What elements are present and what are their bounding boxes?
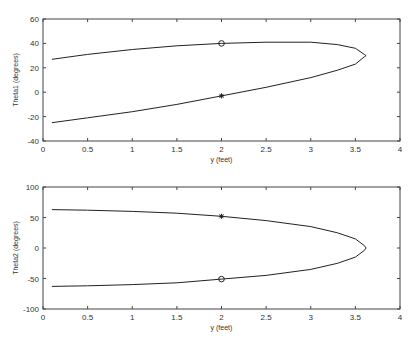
y-tick-label: -100 bbox=[23, 305, 40, 314]
y-tick-label: 50 bbox=[30, 214, 39, 223]
x-tick-label: 2 bbox=[219, 145, 224, 154]
y-tick-label: 0 bbox=[35, 88, 40, 97]
plot-area bbox=[43, 187, 400, 309]
figure: 00.511.522.533.546040200-20-40y (feet)Th… bbox=[0, 0, 418, 343]
y-tick-label: 20 bbox=[30, 64, 39, 73]
x-tick-label: 3.5 bbox=[350, 313, 362, 322]
x-tick-label: 0 bbox=[41, 313, 46, 322]
x-tick-label: 2.5 bbox=[261, 313, 273, 322]
x-tick-label: 0.5 bbox=[82, 145, 94, 154]
y-axis-label: Theta2 (degrees) bbox=[12, 221, 20, 275]
x-tick-label: 3 bbox=[309, 313, 314, 322]
y-tick-label: 40 bbox=[30, 39, 39, 48]
y-tick-label: -40 bbox=[27, 137, 39, 146]
x-tick-label: 1.5 bbox=[171, 313, 183, 322]
y-tick-label: -20 bbox=[27, 113, 39, 122]
x-tick-label: 1 bbox=[130, 313, 135, 322]
x-tick-label: 3 bbox=[309, 145, 314, 154]
theta1-chart: 00.511.522.533.546040200-20-40y (feet)Th… bbox=[12, 15, 403, 164]
x-axis-label: y (feet) bbox=[211, 324, 233, 332]
x-tick-label: 1.5 bbox=[171, 145, 183, 154]
plot-area bbox=[43, 19, 400, 141]
star-marker bbox=[219, 214, 224, 219]
theta2-chart: 00.511.522.533.54100500-50-100y (feet)Th… bbox=[12, 183, 403, 332]
star-marker bbox=[219, 93, 224, 98]
x-tick-label: 4 bbox=[398, 313, 403, 322]
x-tick-label: 0.5 bbox=[82, 313, 94, 322]
y-axis-label: Theta1 (degrees) bbox=[12, 53, 20, 107]
x-tick-label: 1 bbox=[130, 145, 135, 154]
x-tick-label: 0 bbox=[41, 145, 46, 154]
y-tick-label: 100 bbox=[26, 183, 40, 192]
y-tick-label: -50 bbox=[27, 275, 39, 284]
y-tick-label: 60 bbox=[30, 15, 39, 24]
y-tick-label: 0 bbox=[35, 244, 40, 253]
x-tick-label: 4 bbox=[398, 145, 403, 154]
x-tick-label: 3.5 bbox=[350, 145, 362, 154]
x-tick-label: 2 bbox=[219, 313, 224, 322]
x-axis-label: y (feet) bbox=[211, 156, 233, 164]
x-tick-label: 2.5 bbox=[261, 145, 273, 154]
